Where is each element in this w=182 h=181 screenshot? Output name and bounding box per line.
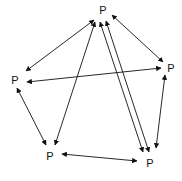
node-bottom-left: P xyxy=(46,150,53,162)
edge-right-bottom-right xyxy=(156,75,165,148)
edge-left-right xyxy=(27,68,161,82)
edge-bottom-left-bottom-right xyxy=(62,154,137,161)
node-bottom-right: P xyxy=(146,157,153,169)
edge-left-bottom-left xyxy=(17,88,46,145)
edge-top-bottom-right xyxy=(100,22,143,152)
edge-top-bottom-right xyxy=(106,21,149,152)
edges-group xyxy=(17,15,165,161)
node-left: P xyxy=(11,74,18,86)
edge-top-right xyxy=(112,15,163,62)
node-top: P xyxy=(99,4,106,16)
edge-top-bottom-left xyxy=(55,22,95,145)
node-right: P xyxy=(167,62,174,74)
graph-diagram: PPPPP xyxy=(0,0,182,181)
edge-top-left xyxy=(26,20,94,71)
